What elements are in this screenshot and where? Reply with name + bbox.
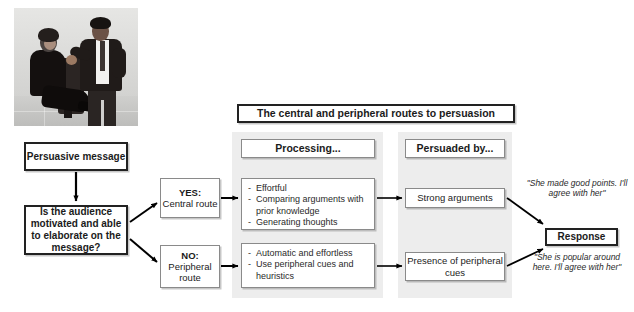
arrow-strong-arguments-to-response	[507, 198, 543, 224]
processing-header: Processing...	[275, 142, 340, 154]
photo-man-tie	[100, 41, 105, 71]
branch-yes-answer: YES:	[179, 187, 201, 198]
central-processing-box: Effortful Comparing arguments with prior…	[241, 178, 375, 230]
arrow-question-to-yes	[130, 203, 157, 222]
photo-woman-hair	[38, 28, 59, 42]
branch-yes-route: Central route	[163, 198, 218, 209]
photo-man-hair	[90, 17, 111, 29]
central-response-quote: "She made good points. I'll agree with h…	[524, 178, 630, 199]
central-processing-item: Comparing arguments with prior knowledge	[248, 194, 369, 217]
figure-title: The central and peripheral routes to per…	[257, 107, 495, 119]
audience-question-label: Is the audience motivated and able to el…	[29, 206, 123, 253]
branch-no-route: Peripheral route	[161, 261, 219, 283]
photo-man-leg-gap	[101, 100, 104, 126]
photo-man-hand	[66, 55, 77, 65]
peripheral-response-quote: "She is popular around here. I'll agree …	[524, 252, 630, 273]
peripheral-cues-label: Presence of peripheral cues	[406, 255, 504, 277]
peripheral-cues-box: Presence of peripheral cues	[405, 252, 505, 281]
figure-title-box: The central and peripheral routes to per…	[237, 104, 515, 123]
audience-question-box: Is the audience motivated and able to el…	[24, 205, 128, 255]
photo-man-arm-right	[112, 48, 126, 78]
two-people-conversation-photo	[14, 8, 138, 126]
peripheral-processing-item: Automatic and effortless	[248, 248, 369, 259]
strong-arguments-label: Strong arguments	[417, 192, 493, 203]
response-label: Response	[558, 231, 606, 243]
branch-no-answer: NO:	[181, 250, 198, 261]
central-processing-item: Effortful	[248, 183, 369, 194]
central-processing-item: Generating thoughts	[248, 217, 369, 228]
branch-no-box: NO: Peripheral route	[160, 245, 220, 288]
persuasive-message-box: Persuasive message	[24, 142, 128, 171]
response-box: Response	[545, 228, 618, 246]
figure-canvas: The central and peripheral routes to per…	[0, 0, 634, 312]
peripheral-processing-box: Automatic and effortless Use peripheral …	[241, 243, 375, 288]
peripheral-processing-item: Use peripheral cues and heuristics	[248, 259, 369, 282]
persuaded-by-header-box: Persuaded by...	[405, 139, 505, 158]
persuasive-message-label: Persuasive message	[27, 151, 125, 163]
strong-arguments-box: Strong arguments	[405, 188, 505, 208]
processing-header-box: Processing...	[241, 139, 375, 158]
persuaded-by-header: Persuaded by...	[417, 142, 494, 154]
branch-yes-box: YES: Central route	[160, 178, 220, 218]
arrow-question-to-no	[130, 239, 157, 262]
